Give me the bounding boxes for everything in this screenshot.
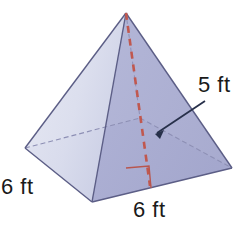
base-edge-left-label: 6 ft: [1, 176, 34, 198]
pyramid-diagram: [0, 0, 250, 232]
slant-height-label: 5 ft: [198, 74, 231, 96]
pyramid-figure: 5 ft 6 ft 6 ft: [0, 0, 250, 232]
base-edge-front-label: 6 ft: [133, 199, 166, 221]
